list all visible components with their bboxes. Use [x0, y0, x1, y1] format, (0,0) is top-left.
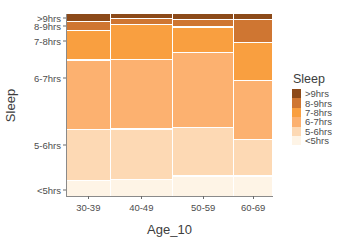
mosaic-column-60-69[interactable]	[234, 14, 272, 196]
legend-swatch-icon	[292, 98, 301, 107]
mosaic-cell[interactable]	[234, 140, 272, 175]
legend-swatch-icon	[292, 117, 301, 126]
mosaic-cell[interactable]	[234, 177, 272, 196]
y-tick-label-1: 8-9hrs	[34, 21, 61, 32]
mosaic-cell[interactable]	[111, 19, 172, 24]
mosaic-cell[interactable]	[234, 43, 272, 80]
x-tick-label-30-39: 30-39	[76, 202, 100, 213]
y-tick-label-2: 7-8hrs	[34, 35, 61, 46]
legend-swatch-icon	[292, 127, 301, 136]
mosaic-cell[interactable]	[67, 14, 110, 21]
mosaic-cell[interactable]	[67, 22, 110, 30]
mosaic-plot-figure: Sleep >9hrs8-9hrs7-8hrs6-7hrs5-6hrs<5hrs…	[0, 0, 356, 248]
mosaic-cell[interactable]	[67, 130, 110, 179]
mosaic-cell[interactable]	[67, 31, 110, 59]
mosaic-column-30-39[interactable]	[67, 14, 110, 196]
legend-swatch-icon	[292, 108, 301, 117]
legend: Sleep >9hrs8-9hrs7-8hrs6-7hrs5-6hrs<5hrs	[292, 72, 354, 145]
mosaic-cell[interactable]	[111, 130, 172, 179]
x-tick-mark	[203, 196, 204, 199]
mosaic-cell[interactable]	[67, 181, 110, 196]
legend-title: Sleep	[292, 72, 354, 86]
mosaic-cell[interactable]	[234, 14, 272, 19]
y-tick-label-3: 6-7hrs	[34, 73, 61, 84]
mosaic-cell[interactable]	[173, 53, 233, 127]
x-tick-label-40-49: 40-49	[129, 202, 153, 213]
y-tick-label-5: <5hrs	[37, 184, 61, 195]
mosaic-cell[interactable]	[67, 61, 110, 130]
x-axis-title: Age_10	[67, 222, 272, 237]
legend-swatch-icon	[292, 136, 301, 145]
y-tick-label-4: 5-6hrs	[34, 140, 61, 151]
mosaic-cell[interactable]	[111, 60, 172, 129]
legend-swatch-icon	[292, 89, 301, 98]
x-tick-label-60-69: 60-69	[241, 202, 265, 213]
mosaic-cell[interactable]	[111, 14, 172, 18]
mosaic-cell[interactable]	[173, 20, 233, 26]
x-tick-mark	[141, 196, 142, 199]
mosaic-cell[interactable]	[111, 180, 172, 196]
mosaic-cell[interactable]	[173, 128, 233, 176]
x-tick-mark	[253, 196, 254, 199]
x-axis-tick-labels: 30-3940-4950-5960-69	[67, 196, 272, 220]
mosaic-cell[interactable]	[173, 28, 233, 52]
mosaic-cell[interactable]	[173, 14, 233, 19]
mosaic-column-40-49[interactable]	[111, 14, 172, 196]
legend-items: >9hrs8-9hrs7-8hrs6-7hrs5-6hrs<5hrs	[292, 89, 354, 145]
legend-item-5[interactable]: <5hrs	[292, 136, 354, 145]
mosaic-cell[interactable]	[234, 81, 272, 139]
y-axis-title-label: Sleep	[4, 88, 19, 121]
mosaic-cell[interactable]	[234, 20, 272, 41]
y-axis-tick-labels: >9hrs8-9hrs7-8hrs6-7hrs5-6hrs<5hrs	[18, 0, 66, 210]
mosaic-cell[interactable]	[173, 177, 233, 196]
mosaic-cell[interactable]	[111, 25, 172, 58]
plot-panel	[67, 14, 272, 196]
mosaic-column-50-59[interactable]	[173, 14, 233, 196]
legend-item-label: <5hrs	[305, 135, 329, 146]
x-tick-label-50-59: 50-59	[191, 202, 215, 213]
x-tick-mark	[88, 196, 89, 199]
